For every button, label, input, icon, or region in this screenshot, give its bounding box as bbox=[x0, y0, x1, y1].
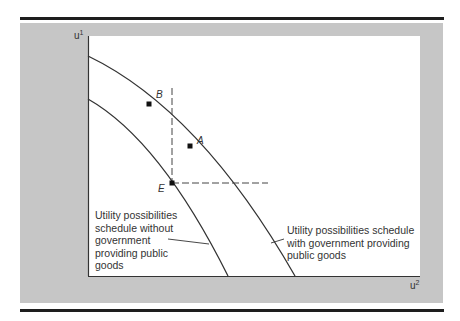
label-without-government: Utility possibilities schedule without g… bbox=[95, 209, 177, 272]
label-with-government: Utility possibilities schedule with gove… bbox=[287, 224, 414, 262]
point-a-marker bbox=[188, 144, 193, 149]
point-a-label: A bbox=[197, 135, 204, 146]
point-b-marker bbox=[147, 102, 152, 107]
bottom-rule bbox=[20, 309, 444, 312]
x-axis-label: u2 bbox=[410, 279, 419, 291]
point-e-marker bbox=[170, 181, 175, 186]
y-axis-label: u1 bbox=[74, 29, 83, 41]
diagram-graphics bbox=[0, 0, 460, 321]
point-e-label: E bbox=[158, 183, 165, 194]
point-b-label: B bbox=[156, 89, 163, 100]
